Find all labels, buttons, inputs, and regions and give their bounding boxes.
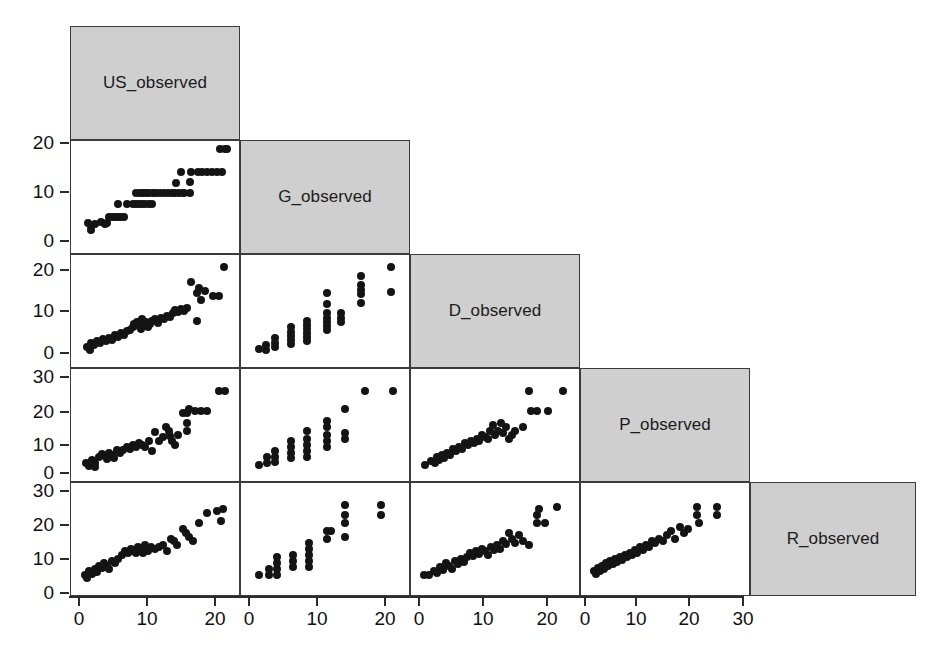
y-tick-label-r-20: 20 <box>14 514 54 536</box>
x-tick-mark <box>418 597 420 606</box>
x-tick-label-p-10: 10 <box>615 608 657 630</box>
scatter-svg-g-vs-us <box>71 141 239 253</box>
scatter-svg-p-vs-g <box>241 369 409 481</box>
x-tick-label-us-10: 10 <box>126 608 168 630</box>
point-cloud <box>84 145 231 234</box>
x-tick-mark <box>635 597 637 606</box>
x-tick-mark <box>146 597 148 606</box>
y-tick-mark <box>60 411 69 413</box>
x-tick-mark <box>482 597 484 606</box>
scatter-svg-d-vs-us <box>71 255 239 367</box>
x-tick-mark <box>78 597 80 606</box>
x-tick-mark <box>742 597 744 606</box>
x-tick-label-g-10: 10 <box>296 608 338 630</box>
scatter-panel-r-vs-us <box>70 482 240 596</box>
point-cloud <box>83 263 228 354</box>
y-tick-label-d-20: 20 <box>14 259 54 281</box>
diagonal-panel-p-observed: P_observed <box>580 368 750 482</box>
y-tick-mark <box>60 472 69 474</box>
y-tick-label-p-30: 30 <box>14 366 54 388</box>
y-tick-label-g-0: 0 <box>14 230 54 252</box>
y-tick-mark <box>60 240 69 242</box>
point-cloud <box>421 387 567 469</box>
y-tick-mark <box>60 352 69 354</box>
y-tick-label-p-20: 20 <box>14 401 54 423</box>
scatter-svg-d-vs-g <box>241 255 409 367</box>
diagonal-panel-r-observed: R_observed <box>750 482 916 596</box>
scatter-panel-d-vs-g <box>240 254 410 368</box>
y-tick-mark <box>60 191 69 193</box>
y-tick-mark <box>60 444 69 446</box>
y-tick-mark <box>60 310 69 312</box>
point-cloud <box>81 505 227 582</box>
y-tick-mark <box>60 269 69 271</box>
y-tick-label-d-0: 0 <box>14 342 54 364</box>
y-tick-mark <box>60 524 69 526</box>
x-tick-mark <box>248 597 250 606</box>
x-tick-label-us-0: 0 <box>58 608 100 630</box>
scatter-panel-r-vs-d <box>410 482 580 596</box>
x-tick-label-p-20: 20 <box>668 608 710 630</box>
diagonal-label-r-observed: R_observed <box>787 529 880 549</box>
scatter-svg-r-vs-d <box>411 483 579 595</box>
diagonal-panel-us-observed: US_observed <box>70 26 240 140</box>
point-cloud <box>420 503 561 579</box>
x-tick-mark <box>316 597 318 606</box>
diagonal-label-d-observed: D_observed <box>449 301 542 321</box>
point-cloud <box>255 263 395 354</box>
y-tick-label-r-0: 0 <box>14 582 54 604</box>
scatter-panel-r-vs-p <box>580 482 750 596</box>
scatter-svg-r-vs-g <box>241 483 409 595</box>
scatter-panel-d-vs-us <box>70 254 240 368</box>
scatter-panel-g-vs-us <box>70 140 240 254</box>
point-cloud <box>255 501 385 579</box>
diagonal-panel-d-observed: D_observed <box>410 254 580 368</box>
scatter-svg-r-vs-p <box>581 483 749 595</box>
x-tick-label-p-30: 30 <box>722 608 764 630</box>
scatter-panel-p-vs-g <box>240 368 410 482</box>
scatter-panel-p-vs-d <box>410 368 580 482</box>
y-tick-label-p-10: 10 <box>14 434 54 456</box>
y-tick-label-g-20: 20 <box>14 132 54 154</box>
scatter-panel-p-vs-us <box>70 368 240 482</box>
x-tick-mark <box>384 597 386 606</box>
figure-root: US_observed G_observed D_observed P_obse… <box>0 0 940 668</box>
y-tick-label-r-30: 30 <box>14 480 54 502</box>
point-cloud <box>82 387 229 471</box>
y-tick-mark <box>60 558 69 560</box>
x-axis-baseline <box>69 596 744 598</box>
x-tick-mark <box>214 597 216 606</box>
x-tick-label-g-0: 0 <box>228 608 270 630</box>
y-tick-label-g-10: 10 <box>14 181 54 203</box>
y-tick-label-d-10: 10 <box>14 300 54 322</box>
x-tick-label-p-0: 0 <box>564 608 606 630</box>
x-tick-label-d-0: 0 <box>398 608 440 630</box>
diagonal-panel-g-observed: G_observed <box>240 140 410 254</box>
y-tick-mark <box>60 376 69 378</box>
y-tick-label-r-10: 10 <box>14 548 54 570</box>
point-cloud <box>255 387 397 469</box>
x-tick-mark <box>546 597 548 606</box>
diagonal-label-us-observed: US_observed <box>103 73 207 93</box>
x-tick-mark <box>688 597 690 606</box>
scatter-panel-r-vs-g <box>240 482 410 596</box>
x-tick-mark <box>584 597 586 606</box>
scatter-svg-p-vs-us <box>71 369 239 481</box>
x-tick-label-d-20: 20 <box>526 608 568 630</box>
point-cloud <box>590 503 721 578</box>
scatterplot-matrix: US_observed G_observed D_observed P_obse… <box>0 0 940 668</box>
scatter-svg-p-vs-d <box>411 369 579 481</box>
diagonal-label-g-observed: G_observed <box>278 187 372 207</box>
x-tick-label-d-10: 10 <box>462 608 504 630</box>
y-tick-mark <box>60 592 69 594</box>
y-tick-mark <box>60 490 69 492</box>
y-tick-mark <box>60 142 69 144</box>
diagonal-label-p-observed: P_observed <box>619 415 711 435</box>
scatter-svg-r-vs-us <box>71 483 239 595</box>
